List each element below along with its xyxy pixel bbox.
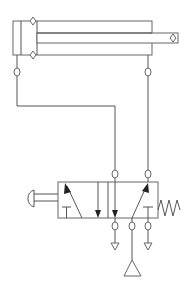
air-lines (14, 55, 151, 182)
exhaust-icon (144, 243, 152, 250)
port-connector-icon (145, 222, 151, 230)
line-cap-side (17, 55, 115, 182)
spring-icon (158, 200, 180, 216)
pressure-source-icon (124, 260, 141, 276)
port-connector-icon (112, 222, 118, 230)
port-connector-icon (145, 68, 151, 76)
port-connector-icon (145, 170, 151, 178)
port-connector-icon (129, 222, 135, 230)
port-connector-icon (112, 170, 118, 178)
cylinder-rod (37, 33, 178, 43)
double-acting-cylinder (13, 17, 178, 59)
valve-bottom-ports (111, 218, 152, 276)
push-button-icon (28, 190, 34, 207)
pneumatic-circuit-diagram (0, 0, 194, 290)
exhaust-icon (111, 243, 119, 250)
port-connector-icon (14, 68, 20, 76)
directional-valve (28, 182, 180, 218)
